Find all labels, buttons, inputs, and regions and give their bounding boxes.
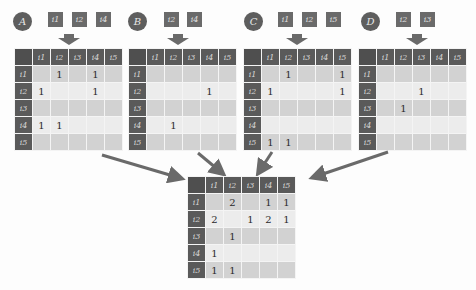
matrix-cell: 1 [224,262,241,278]
matrix-cell [224,245,241,261]
column-header: i4 [260,177,277,193]
matrix-cell: 1 [260,194,277,210]
matrix-cell: 1 [206,245,223,261]
column-header: i2 [224,177,241,193]
matrix-cell: 1 [278,211,295,227]
column-header: i3 [242,177,259,193]
corner-cell [188,177,205,193]
row-header: i2 [188,211,205,227]
row-header: i3 [188,228,205,244]
matrix-cell: 2 [224,194,241,210]
matrix-cell [260,262,277,278]
matrix-row: i511 [188,262,295,278]
matrix-cell [242,262,259,278]
row-header: i4 [188,245,205,261]
arrow-d-to-result [314,152,388,177]
column-header: i1 [206,177,223,193]
matrix-cell [242,194,259,210]
matrix-cell: 2 [260,211,277,227]
row-header: i5 [188,262,205,278]
matrix-cell [242,228,259,244]
row-header: i1 [188,194,205,210]
matrix-cell [206,194,223,210]
arrow-b-to-result [198,153,222,173]
matrix-cell [278,245,295,261]
matrix-row: i22121 [188,211,295,227]
matrix-row: i31 [188,228,295,244]
matrix-cell: 1 [242,211,259,227]
matrix-cell [278,228,295,244]
matrix-cell [242,245,259,261]
matrix-row: i1211 [188,194,295,210]
matrix-cell [224,211,241,227]
matrix-cell [278,262,295,278]
matrix-result: i1i2i3i4i5i1211i22121i31i41i511 [187,176,296,279]
matrix-cell [260,228,277,244]
matrix-cell [260,245,277,261]
column-header: i5 [278,177,295,193]
matrix-cell: 1 [206,262,223,278]
matrix-cell: 1 [278,194,295,210]
matrix-cell: 2 [206,211,223,227]
arrow-c-to-result [259,152,272,172]
matrix-cell [206,228,223,244]
arrow-a-to-result [102,155,180,178]
matrix-row: i41 [188,245,295,261]
matrix-cell: 1 [224,228,241,244]
